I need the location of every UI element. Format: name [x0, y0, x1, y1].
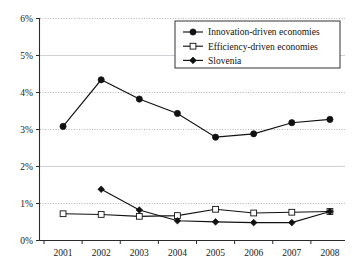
data-point-3-2006	[250, 219, 257, 226]
data-point-2-2006	[251, 210, 257, 216]
series-line-1	[63, 80, 330, 137]
y-axis-tick-labels: 0%1%2%3%4%5%6%	[20, 14, 33, 246]
x-tick-label-2002: 2002	[92, 248, 111, 258]
legend-marker-1	[190, 29, 196, 35]
data-point-1-2004	[174, 110, 180, 116]
data-point-2-2002	[98, 212, 104, 218]
data-point-2-2001	[60, 211, 66, 217]
series-2	[60, 206, 333, 219]
data-point-1-2007	[289, 120, 295, 126]
series-1	[60, 77, 333, 141]
data-point-3-2002	[98, 186, 105, 193]
chart-legend: Innovation-driven economiesEfficiency-dr…	[175, 21, 340, 68]
data-point-1-2008	[327, 116, 333, 122]
x-tick-label-2007: 2007	[282, 248, 301, 258]
data-point-3-2003	[136, 207, 143, 214]
y-tick-label-3%: 3%	[20, 125, 33, 135]
x-tick-label-2001: 2001	[54, 248, 73, 258]
legend-label-3: Slovenia	[208, 56, 242, 66]
legend-label-2: Efficiency-driven economies	[208, 42, 318, 52]
x-tick-label-2008: 2008	[320, 248, 339, 258]
data-point-1-2006	[251, 131, 257, 137]
y-tick-label-5%: 5%	[20, 51, 33, 61]
legend-marker-2	[190, 43, 196, 49]
line-chart: 0%1%2%3%4%5%6% 2001200220032004200520062…	[0, 0, 356, 276]
y-tick-label-2%: 2%	[20, 162, 33, 172]
y-tick-label-6%: 6%	[20, 14, 33, 24]
y-tick-label-1%: 1%	[20, 199, 33, 209]
data-point-3-2007	[289, 219, 296, 226]
data-point-1-2005	[212, 134, 218, 140]
x-axis-tick-labels: 20012002200320042005200620072008	[54, 248, 340, 258]
x-tick-label-2006: 2006	[244, 248, 263, 258]
y-tick-label-0%: 0%	[20, 236, 33, 246]
data-point-1-2002	[98, 77, 104, 83]
x-tick-label-2005: 2005	[206, 248, 225, 258]
chart-canvas: 0%1%2%3%4%5%6% 2001200220032004200520062…	[0, 0, 356, 276]
x-tick-label-2004: 2004	[168, 248, 187, 258]
data-point-3-2005	[212, 219, 219, 226]
legend-label-1: Innovation-driven economies	[208, 27, 320, 37]
data-point-1-2003	[136, 96, 142, 102]
x-tick-label-2003: 2003	[130, 248, 149, 258]
data-point-2-2007	[289, 209, 295, 215]
data-point-2-2005	[213, 206, 219, 212]
data-point-1-2001	[60, 123, 66, 129]
data-point-2-2003	[136, 213, 142, 219]
y-tick-label-4%: 4%	[20, 88, 33, 98]
